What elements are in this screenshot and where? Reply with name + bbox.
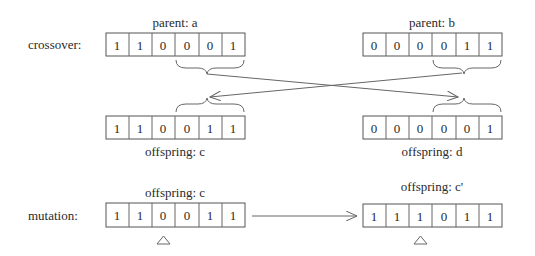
gene: 0 bbox=[394, 121, 401, 136]
gene: 1 bbox=[230, 121, 237, 136]
mutation-before-chromosome: 1 1 0 0 1 1 bbox=[106, 203, 245, 227]
gene: 1 bbox=[137, 38, 144, 53]
gene: 1 bbox=[417, 209, 424, 224]
ga-diagram: crossover: mutation: parent: a 1 1 0 0 0… bbox=[0, 0, 535, 256]
offspring-c-chromosome: 1 1 0 0 1 1 bbox=[106, 116, 245, 139]
mutation-before-label: offspring: c bbox=[145, 185, 205, 200]
gene: 1 bbox=[487, 38, 494, 53]
arrow-b-to-c bbox=[210, 73, 462, 97]
gene: 1 bbox=[464, 209, 471, 224]
gene: 0 bbox=[160, 208, 167, 223]
gene: 0 bbox=[371, 121, 378, 136]
gene: 0 bbox=[464, 121, 471, 136]
gene: 0 bbox=[417, 121, 424, 136]
parent-b-chromosome: 0 0 0 0 1 1 bbox=[363, 33, 502, 56]
gene: 1 bbox=[114, 208, 121, 223]
gene: 1 bbox=[114, 38, 121, 53]
gene: 0 bbox=[184, 121, 191, 136]
gene: 1 bbox=[230, 208, 237, 223]
crossover-label: crossover: bbox=[28, 37, 81, 52]
triangle-up-icon bbox=[157, 236, 170, 244]
parent-a-chromosome: 1 1 0 0 0 1 bbox=[106, 33, 245, 56]
gene: 0 bbox=[184, 38, 191, 53]
mutation-label: mutation: bbox=[28, 208, 78, 223]
gene: 1 bbox=[487, 121, 494, 136]
parent-b-label: parent: b bbox=[409, 15, 455, 30]
gene: 0 bbox=[441, 38, 448, 53]
gene: 1 bbox=[487, 209, 494, 224]
gene: 0 bbox=[394, 38, 401, 53]
brace-up-icon bbox=[176, 98, 244, 112]
gene: 0 bbox=[417, 38, 424, 53]
offspring-d-label: offspring: d bbox=[402, 144, 463, 159]
offspring-d-chromosome: 0 0 0 0 0 1 bbox=[363, 116, 502, 139]
gene: 0 bbox=[371, 38, 378, 53]
gene: 1 bbox=[114, 121, 121, 136]
brace-up-icon bbox=[433, 98, 501, 112]
mutation-after-label: offspring: c' bbox=[401, 179, 463, 194]
gene: 0 bbox=[184, 208, 191, 223]
gene: 1 bbox=[137, 208, 144, 223]
brace-down-icon bbox=[433, 60, 501, 74]
gene: 1 bbox=[230, 38, 237, 53]
gene: 0 bbox=[160, 121, 167, 136]
gene: 1 bbox=[137, 121, 144, 136]
gene: 0 bbox=[441, 209, 448, 224]
gene: 0 bbox=[160, 38, 167, 53]
gene: 1 bbox=[394, 209, 401, 224]
gene: 1 bbox=[371, 209, 378, 224]
brace-down-icon bbox=[176, 60, 244, 74]
gene: 1 bbox=[207, 208, 214, 223]
gene: 1 bbox=[464, 38, 471, 53]
gene: 0 bbox=[441, 121, 448, 136]
offspring-c-label: offspring: c bbox=[145, 144, 205, 159]
triangle-up-icon bbox=[414, 236, 427, 244]
gene: 0 bbox=[207, 38, 214, 53]
gene: 1 bbox=[207, 121, 214, 136]
parent-a-label: parent: a bbox=[152, 15, 197, 30]
mutation-after-chromosome: 1 1 1 0 1 1 bbox=[363, 204, 502, 227]
